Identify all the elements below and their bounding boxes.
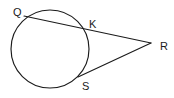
- point-label-s: S: [82, 81, 89, 92]
- point-label-q: Q: [13, 7, 22, 18]
- point-label-r: R: [160, 41, 168, 52]
- geometry-figure: Q K R S: [0, 0, 174, 98]
- point-label-k: K: [89, 19, 96, 30]
